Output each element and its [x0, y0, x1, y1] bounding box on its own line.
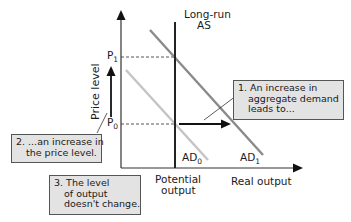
callout-output-unchanged: 3. The level of output doesn't change. — [49, 175, 141, 215]
callout-3-line-1: 3. The level — [54, 178, 136, 189]
p1-label: P1 — [107, 50, 118, 62]
x-axis-arrow-icon — [293, 164, 303, 173]
up-arrow-icon — [107, 66, 116, 76]
lras-label-line2: AS — [197, 20, 211, 31]
y-axis-arrow-icon — [117, 10, 126, 20]
x-axis-label: Real output — [231, 176, 292, 187]
callout-3-line-3: doesn't change. — [54, 199, 136, 210]
ad1-label: AD1 — [240, 152, 260, 164]
ad0-label: AD0 — [182, 152, 202, 164]
potential-output-label-line2: output — [161, 185, 196, 196]
callout-1-line-3: leads to... — [238, 104, 339, 115]
right-arrow-icon — [221, 120, 231, 129]
callout-2-line-1: 2. ...an increase in — [16, 137, 97, 148]
p0-label: P0 — [107, 117, 118, 129]
callout-1-line-1: 1. An increase in — [238, 83, 339, 94]
y-axis-label: Price level — [89, 64, 102, 121]
ad0-curve — [126, 70, 208, 160]
callout-price-level: 2. ...an increase in the price level. — [11, 134, 102, 163]
callout-aggregate-demand: 1. An increase in aggregate demand leads… — [233, 80, 344, 120]
callout-2-line-2: the price level. — [16, 148, 97, 159]
